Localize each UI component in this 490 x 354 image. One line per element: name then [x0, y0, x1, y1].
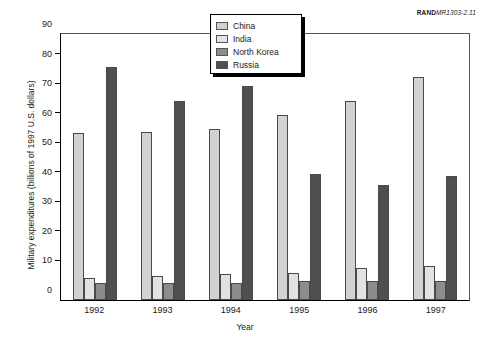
bar-china-1997 [413, 77, 424, 300]
bar-russia-1997 [446, 176, 457, 300]
bar-russia-1992 [106, 67, 117, 300]
y-tick-label: 80 [32, 49, 52, 59]
legend-swatch [216, 61, 228, 69]
y-tick-label: 60 [32, 108, 52, 118]
bar-russia-1996 [378, 185, 389, 300]
bar-china-1992 [73, 133, 84, 300]
y-tick-label: 10 [32, 255, 52, 265]
y-tick-label: 20 [32, 226, 52, 236]
legend-item-india: India [216, 32, 301, 45]
bar-china-1994 [209, 129, 220, 300]
x-tick-label-1996: 1996 [357, 305, 377, 315]
y-tick-70: 70 [32, 78, 61, 88]
bar-india-1995 [288, 273, 299, 300]
y-tick-60: 60 [32, 108, 61, 118]
source-credit: RANDMR1303-2.11 [417, 9, 476, 16]
legend-swatch [216, 35, 228, 43]
document-id: MR1303-2.11 [436, 9, 476, 16]
legend-item-north-korea: North Korea [216, 45, 301, 58]
legend-label: North Korea [233, 47, 279, 57]
y-tick-80: 80 [32, 49, 61, 59]
bar-north-korea-1994 [231, 283, 242, 300]
bar-group-1997 [413, 34, 457, 300]
y-tick-30: 30 [32, 196, 61, 206]
y-tick-label: 70 [32, 78, 52, 88]
x-tick-label-1992: 1992 [84, 305, 104, 315]
legend-swatch [216, 48, 228, 56]
legend-item-china: China [216, 19, 301, 32]
bar-north-korea-1997 [435, 281, 446, 301]
x-axis-title: Year [0, 322, 490, 332]
y-tick-40: 40 [32, 167, 61, 177]
y-tick-20: 20 [32, 226, 61, 236]
bar-india-1996 [356, 268, 367, 300]
figure: RANDMR1303-2.11 Military expenditures (b… [0, 0, 490, 354]
bar-group-1993 [141, 34, 185, 300]
y-tick-label: 0 [32, 285, 52, 295]
x-tick-label-1994: 1994 [221, 305, 241, 315]
y-tick-10: 10 [32, 255, 61, 265]
bar-india-1997 [424, 266, 435, 300]
x-tick-label-1997: 1997 [426, 305, 446, 315]
bar-north-korea-1996 [367, 281, 378, 300]
bar-china-1995 [277, 115, 288, 300]
bar-group-1996 [345, 34, 389, 300]
legend-label: India [233, 34, 251, 44]
bar-china-1993 [141, 132, 152, 300]
x-tick-label-1995: 1995 [289, 305, 309, 315]
y-tick-label: 50 [32, 137, 52, 147]
bar-india-1993 [152, 276, 163, 300]
bar-north-korea-1993 [163, 283, 174, 300]
bar-group-1992 [73, 34, 117, 300]
y-tick-0: 0 [32, 285, 61, 295]
bar-north-korea-1995 [299, 281, 310, 300]
bar-russia-1995 [310, 174, 321, 300]
chart-legend: ChinaIndiaNorth KoreaRussia [210, 14, 302, 74]
legend-swatch [216, 22, 228, 30]
y-tick-label: 90 [32, 19, 52, 29]
legend-label: Russia [233, 60, 259, 70]
x-tick-label-1993: 1993 [152, 305, 172, 315]
y-tick-label: 40 [32, 167, 52, 177]
y-tick-90: 90 [32, 19, 61, 29]
rand-brand: RAND [417, 9, 436, 16]
legend-label: China [233, 21, 255, 31]
x-axis-ticks: 199219931994199519961997 [60, 305, 470, 315]
bar-india-1992 [84, 278, 95, 300]
bar-north-korea-1992 [95, 283, 106, 300]
y-tick-label: 30 [32, 196, 52, 206]
y-tick-50: 50 [32, 137, 61, 147]
legend-item-russia: Russia [216, 58, 301, 71]
bar-russia-1994 [242, 86, 253, 300]
bar-china-1996 [345, 101, 356, 301]
bar-russia-1993 [174, 101, 185, 300]
bar-india-1994 [220, 274, 231, 300]
